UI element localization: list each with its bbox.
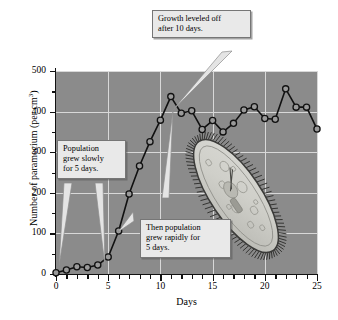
pointer-growth-leveled: [173, 51, 232, 110]
figure-root: 0100200300400500 0510152025 Number of pa…: [0, 0, 338, 320]
grew-slowly-line-3: for 5 days.: [63, 164, 121, 174]
grew-rapidly-callout: Then population grew rapidly for 5 days.: [140, 219, 231, 258]
grew-rapidly-line-1: Then population: [146, 223, 226, 233]
grew-slowly-callout: Population grew slowly for 5 days.: [57, 140, 126, 179]
growth-leveled-line-1: Growth leveled off: [158, 14, 246, 24]
grew-slowly-line-2: grew slowly: [63, 154, 121, 164]
grew-slowly-line-1: Population: [63, 144, 121, 154]
grew-rapidly-line-3: 5 days.: [146, 243, 226, 253]
pointer-grew-rapidly-left: [118, 212, 134, 232]
callout-pointers: [0, 0, 338, 320]
pointer-grew-rapidly-spike: [162, 110, 173, 198]
growth-leveled-callout: Growth leveled off after 10 days.: [152, 10, 251, 38]
pointer-grew-slowly-right: [95, 183, 105, 266]
pointer-grew-slowly-left: [59, 183, 72, 266]
grew-rapidly-line-2: grew rapidly for: [146, 233, 226, 243]
growth-leveled-line-2: after 10 days.: [158, 24, 246, 34]
